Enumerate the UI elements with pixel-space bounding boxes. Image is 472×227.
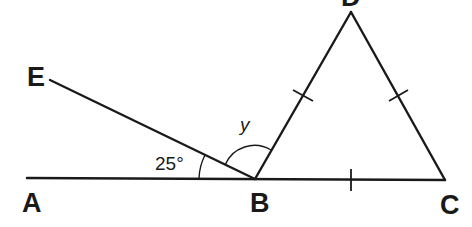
angle-label-y: y [238, 114, 251, 135]
segment-ac [27, 178, 445, 180]
angle-arc-25 [199, 155, 205, 178]
point-label-e: E [27, 62, 45, 92]
geometry-diagram: 25° y A B C D E [0, 0, 472, 227]
point-label-d: D [341, 0, 361, 12]
point-label-a: A [22, 188, 42, 218]
point-label-b: B [250, 188, 270, 218]
point-label-c: C [440, 190, 460, 220]
segment-eb [50, 80, 255, 179]
angle-label-25: 25° [155, 153, 184, 174]
tick-mark-bd [293, 90, 313, 101]
